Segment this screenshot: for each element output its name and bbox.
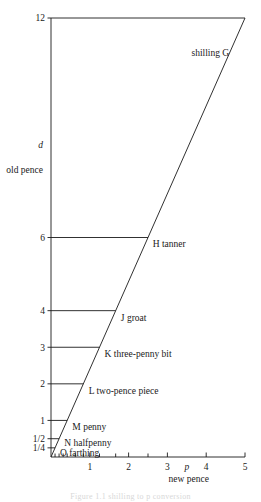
x-tick-label-4: 4 [204,462,209,472]
annotation-L-two-pence-piece: L two-pence piece [89,386,159,396]
annotation-O-farthing: O farthing [60,448,100,458]
x-tick-label-2: 2 [126,462,131,472]
y-tick-label-12: 12 [36,13,46,23]
y-tick-label-1: 1 [40,416,45,426]
y-tick-label-2: 2 [40,379,45,389]
figure-caption: Figure 1.1 shilling to p conversion [0,491,261,502]
x-tick-label-3: 3 [165,462,170,472]
annotation-N-halfpenny: N halfpenny [64,438,111,448]
annotation-J-groat: J groat [121,313,147,323]
y-tick-label-3: 3 [40,343,45,353]
y-tick-label-1/4: 1/4 [33,443,45,453]
y-tick-label-4: 4 [40,306,45,316]
x-axis-symbol: p [183,462,189,472]
annotation-H-tanner: H tanner [153,239,187,249]
y-axis-symbol: d [38,140,43,150]
y-axis-title: old pence [6,165,43,175]
annotation-K-three-penny-bit: K three-penny bit [105,349,172,359]
annotation-M-penny: M penny [72,422,106,432]
x-tick-label-1: 1 [87,462,92,472]
x-axis-title: new pence [169,474,209,484]
conversion-chart-figure: 12643211/21/412345shilling GH tannerJ gr… [0,0,261,502]
y-tick-label-6: 6 [40,233,45,243]
x-tick-label-5: 5 [243,462,248,472]
old-pence-to-new-pence-chart: 12643211/21/412345shilling GH tannerJ gr… [0,0,261,502]
annotation-G-shilling: shilling G [191,48,229,58]
